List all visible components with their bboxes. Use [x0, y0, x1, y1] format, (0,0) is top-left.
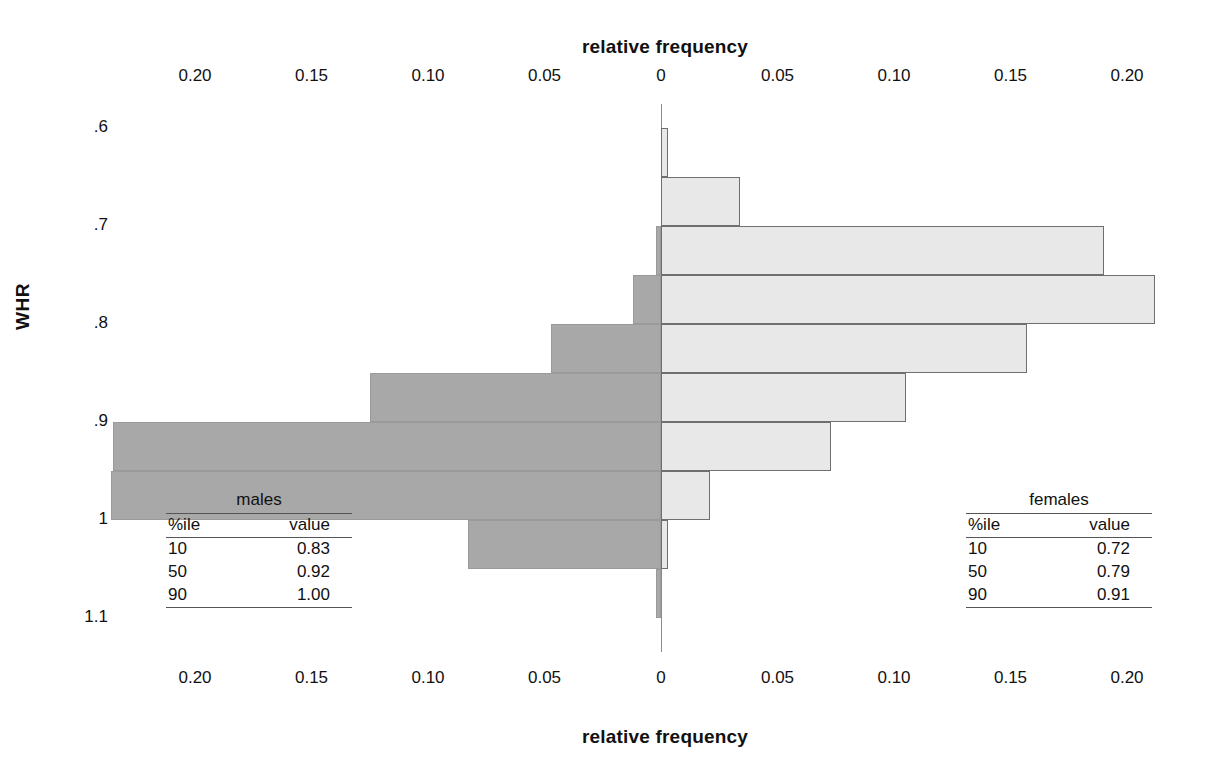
females-value-0: 0.72 [1055, 538, 1152, 562]
x-tick-label-top-0: 0.20 [160, 66, 230, 86]
table-row: 10 0.72 [966, 538, 1152, 562]
table-header-row: %ile value [166, 514, 352, 538]
bar-females-0.70 [661, 226, 1104, 275]
males-table-body: 10 0.83 50 0.92 90 1.00 [166, 538, 352, 608]
females-pct-2: 90 [966, 584, 1055, 608]
x-tick-label-bot-0: 0.20 [160, 668, 230, 688]
males-table: %ile value 10 0.83 50 0.92 90 1.00 [166, 513, 352, 608]
males-pct-0: 10 [166, 538, 255, 562]
bottom-axis-title: relative frequency [0, 726, 1210, 748]
females-table: %ile value 10 0.72 50 0.79 90 0.91 [966, 513, 1152, 608]
x-tick-label-top-7: 0.15 [976, 66, 1046, 86]
x-tick-label-bot-5: 0.05 [743, 668, 813, 688]
females-header-pct: %ile [966, 514, 1055, 538]
bar-males-0.85 [370, 373, 661, 422]
x-tick-label-bot-3: 0.05 [510, 668, 580, 688]
x-tick-label-top-3: 0.05 [510, 66, 580, 86]
table-row: 50 0.79 [966, 561, 1152, 584]
chart-figure: relative frequency WHR 0.200.150.100.050… [0, 0, 1210, 784]
x-tick-label-bot-1: 0.15 [277, 668, 347, 688]
males-table-caption: males [166, 490, 352, 513]
females-value-1: 0.79 [1055, 561, 1152, 584]
bar-males-0.80 [551, 324, 661, 373]
females-pct-0: 10 [966, 538, 1055, 562]
x-tick-label-bot-8: 0.20 [1092, 668, 1162, 688]
males-value-2: 1.00 [255, 584, 352, 608]
table-row: 90 0.91 [966, 584, 1152, 608]
bar-females-1.00 [661, 520, 668, 569]
bar-females-0.75 [661, 275, 1155, 324]
x-tick-label-top-5: 0.05 [743, 66, 813, 86]
x-tick-label-bot-7: 0.15 [976, 668, 1046, 688]
bar-males-1.00 [468, 520, 661, 569]
table-row: 10 0.83 [166, 538, 352, 562]
females-table-caption: females [966, 490, 1152, 513]
males-pct-1: 50 [166, 561, 255, 584]
bar-males-0.90 [113, 422, 661, 471]
bar-females-0.60 [661, 128, 668, 177]
x-tick-label-bot-2: 0.10 [393, 668, 463, 688]
bar-females-0.90 [661, 422, 831, 471]
females-stats-table: females %ile value 10 0.72 50 0.79 90 [966, 490, 1152, 608]
x-tick-label-bot-6: 0.10 [859, 668, 929, 688]
x-tick-label-top-6: 0.10 [859, 66, 929, 86]
top-axis-title: relative frequency [0, 36, 1210, 58]
x-tick-label-bot-4: 0 [626, 668, 696, 688]
females-table-body: 10 0.72 50 0.79 90 0.91 [966, 538, 1152, 608]
table-row: 50 0.92 [166, 561, 352, 584]
table-row: 90 1.00 [166, 584, 352, 608]
males-header-pct: %ile [166, 514, 255, 538]
males-value-1: 0.92 [255, 561, 352, 584]
x-tick-label-top-1: 0.15 [277, 66, 347, 86]
bar-females-0.85 [661, 373, 906, 422]
bar-males-0.75 [633, 275, 661, 324]
bar-females-0.65 [661, 177, 740, 226]
x-tick-label-top-2: 0.10 [393, 66, 463, 86]
males-stats-table: males %ile value 10 0.83 50 0.92 90 [166, 490, 352, 608]
females-header-value: value [1055, 514, 1152, 538]
x-tick-label-top-8: 0.20 [1092, 66, 1162, 86]
males-pct-2: 90 [166, 584, 255, 608]
males-value-0: 0.83 [255, 538, 352, 562]
females-pct-1: 50 [966, 561, 1055, 584]
bar-females-0.95 [661, 471, 710, 520]
bar-males-1.05 [656, 569, 661, 618]
females-value-2: 0.91 [1055, 584, 1152, 608]
bar-females-0.80 [661, 324, 1027, 373]
males-header-value: value [255, 514, 352, 538]
x-tick-label-top-4: 0 [626, 66, 696, 86]
table-header-row: %ile value [966, 514, 1152, 538]
